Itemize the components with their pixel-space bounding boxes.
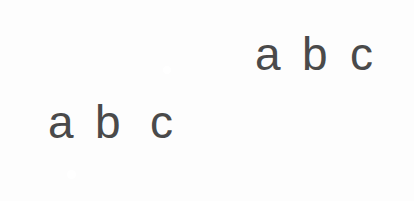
letter-b-portrait: b [302, 31, 328, 77]
letter-c-landscape: c [150, 99, 173, 145]
tablet-portrait-screen[interactable] [0, 142, 106, 201]
home-button-icon[interactable] [67, 170, 76, 179]
letter-b-landscape: b [95, 99, 121, 145]
letter-c-portrait-overflow: c [350, 31, 373, 77]
tablet-portrait[interactable] [0, 142, 143, 201]
diagram-canvas: a b c a b c [0, 0, 414, 201]
home-button-icon[interactable] [163, 66, 171, 74]
letter-a-portrait: a [255, 31, 281, 77]
letter-a-landscape: a [48, 99, 74, 145]
